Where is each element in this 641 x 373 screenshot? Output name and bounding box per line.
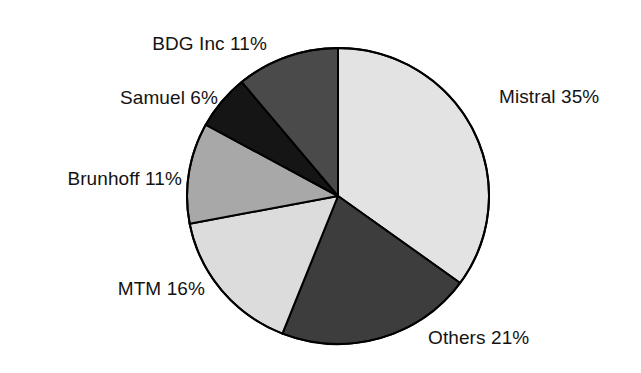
pie-label-mtm: MTM 16% bbox=[118, 279, 205, 298]
pie-chart-figure: Mistral 35%Others 21%MTM 16%Brunhoff 11%… bbox=[0, 0, 641, 373]
pie-label-others: Others 21% bbox=[428, 328, 529, 347]
pie-label-brunhoff: Brunhoff 11% bbox=[67, 169, 182, 188]
pie-label-samuel: Samuel 6% bbox=[120, 88, 218, 107]
pie-label-mistral: Mistral 35% bbox=[499, 87, 599, 106]
pie-slices-group bbox=[187, 48, 489, 344]
pie-label-bdg-inc: BDG Inc 11% bbox=[152, 34, 267, 53]
